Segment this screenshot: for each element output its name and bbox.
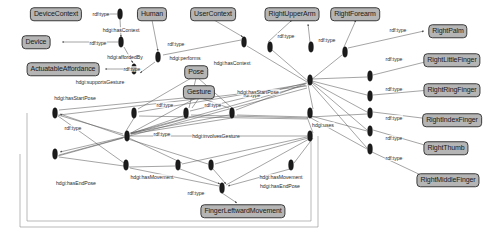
class-node-actuatableAffordance[interactable]: ActuatableAffordance	[27, 62, 100, 76]
class-node-rightUpperArm[interactable]: RightUpperArm	[265, 7, 320, 21]
class-node-deviceContext[interactable]: DeviceContext	[30, 7, 82, 21]
blank-node	[156, 52, 161, 62]
class-node-fingerLeftwardMovement[interactable]: FingerLeftwardMovement	[200, 204, 285, 218]
edge-label-l16: rdf:type	[385, 115, 403, 121]
edge-label-l7: rdf:type	[167, 41, 185, 47]
edge-label-l4: hdgi:affordedBy	[107, 54, 144, 60]
edge-label-l17: rdf:type	[385, 135, 403, 141]
blank-node	[209, 160, 214, 170]
edge-label-l27: hdgi:hasEndPose	[56, 180, 97, 186]
blank-node	[132, 108, 137, 118]
class-node-rightRingFinger[interactable]: RightRingFinger	[423, 83, 480, 97]
edge-label-l1: rdf:type	[92, 11, 110, 17]
blank-node	[289, 160, 294, 170]
blank-node	[368, 108, 373, 118]
edge-label-l15: rdf:type	[385, 86, 403, 92]
blank-node	[368, 71, 373, 81]
edge-label-l24: rdf:type	[204, 102, 222, 108]
edge-label-l19: hdgi:uses	[312, 122, 335, 128]
blank-node	[368, 144, 373, 154]
blank-node	[184, 108, 189, 118]
edge-label-l28: hdgi:hasMovement	[130, 174, 174, 180]
edge-label-l6: hdgi:supportsGesture	[75, 79, 125, 85]
edge-label-l22: rdf:type	[64, 125, 82, 131]
class-node-userContext[interactable]: UserContext	[190, 7, 236, 21]
edge-label-l13: rdf:type	[389, 27, 407, 33]
edge-label-l30: hdgi:hasMovement	[259, 174, 303, 180]
blank-node	[309, 42, 314, 52]
blank-node	[124, 160, 129, 170]
class-node-gesture[interactable]: Gesture	[183, 85, 215, 99]
edge-group-lower	[58, 114, 313, 203]
blank-node	[368, 91, 373, 101]
blank-node	[176, 160, 181, 170]
edge-label-l25: hdgi:involvesGesture	[192, 133, 240, 139]
class-node-rightThumb[interactable]: RightThumb	[423, 141, 468, 155]
class-node-rightPalm[interactable]: RightPalm	[428, 24, 467, 38]
edge-label-l2: hdgi:hasContext	[102, 27, 140, 33]
class-node-device[interactable]: Device	[22, 35, 51, 49]
diagram-canvas: DeviceContextDeviceActuatableAffordanceH…	[0, 0, 498, 235]
edge-label-l23: rdf:type	[156, 102, 174, 108]
blank-node	[242, 37, 247, 47]
class-node-pose[interactable]: Pose	[184, 65, 208, 79]
blank-node	[308, 108, 313, 118]
edge-label-l26: rdf:type	[153, 131, 171, 137]
blank-node	[308, 75, 313, 85]
class-node-rightForearm[interactable]: RightForearm	[330, 7, 380, 21]
edge-label-l11: rdf:type	[277, 33, 295, 39]
edge-label-l3: rdf:type	[89, 40, 107, 46]
blank-node	[343, 47, 348, 57]
edge-label-l20: hdgi:hasStartPose	[54, 95, 97, 101]
blank-node	[308, 131, 313, 141]
class-node-rightLittleFinger[interactable]: RightLittleFinger	[423, 53, 480, 67]
class-node-rightIndexFinger[interactable]: RightIndexFinger	[422, 113, 482, 127]
edge-label-l5: rdf:type	[123, 66, 141, 72]
blank-node	[53, 149, 58, 159]
blank-node	[118, 9, 123, 19]
class-node-rightMiddleFinger[interactable]: RightMiddleFinger	[416, 173, 479, 187]
edge-label-l12: rdf:type	[318, 37, 336, 43]
blank-node	[125, 131, 130, 141]
edge-label-l18: rdf:type	[385, 155, 403, 161]
class-node-human[interactable]: Human	[137, 7, 167, 21]
edge-label-l9: hdgi:hasContext	[213, 60, 251, 66]
edge-label-l29: rdf:type	[187, 190, 205, 196]
blank-node	[368, 126, 373, 136]
edge-label-l8: hdgi:performs	[169, 55, 201, 61]
edge-label-l21: hdgi:hasStartPose	[237, 89, 280, 95]
blank-node	[220, 183, 225, 193]
blank-node	[230, 108, 235, 118]
blank-node	[268, 42, 273, 52]
edge-label-l14: rdf:type	[385, 56, 403, 62]
blank-node	[119, 37, 124, 47]
blank-node	[53, 108, 58, 118]
edge-label-l31: hdgi:hasEndPose	[260, 183, 301, 189]
